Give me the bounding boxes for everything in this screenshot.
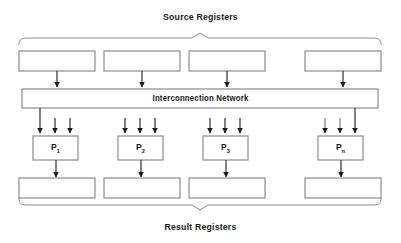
processor-label-p2-sub: 2	[142, 148, 145, 154]
result-register-3[interactable]	[189, 178, 265, 198]
processor-label-p1: P1	[34, 142, 77, 154]
result-registers-title: Result Registers	[16, 221, 385, 232]
result-register-1[interactable]	[19, 178, 95, 198]
diagram-canvas	[0, 0, 401, 243]
processor-label-pn: Pn	[319, 142, 362, 154]
source-registers-brace	[19, 33, 381, 45]
result-register-2[interactable]	[104, 178, 180, 198]
processor-to-result-arrows	[56, 160, 341, 177]
network-to-processor-arrows	[40, 108, 355, 133]
result-registers-brace	[19, 198, 381, 210]
source-register-boxes	[19, 51, 381, 71]
source-registers-title: Source Registers	[16, 11, 385, 22]
result-register-boxes	[19, 178, 381, 198]
interconnection-network-label: Interconnection Network	[16, 93, 385, 103]
source-register-2[interactable]	[104, 51, 180, 71]
source-to-network-arrows	[57, 71, 343, 87]
processor-label-pn-sub: n	[342, 148, 345, 154]
processor-label-p3: P3	[204, 142, 247, 154]
source-register-4[interactable]	[305, 51, 381, 71]
processor-boxes	[33, 136, 363, 160]
processor-label-p1-sub: 1	[57, 148, 60, 154]
parallel-processor-diagram: Source Registers Interconnection Network…	[0, 0, 401, 243]
source-register-3[interactable]	[189, 51, 265, 71]
result-register-4[interactable]	[305, 178, 381, 198]
processor-label-p2: P2	[119, 142, 162, 154]
source-register-1[interactable]	[19, 51, 95, 71]
processor-label-p3-sub: 3	[227, 148, 230, 154]
